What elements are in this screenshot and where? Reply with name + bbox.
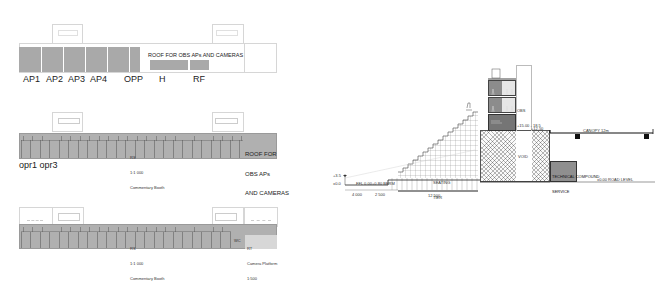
level-label-ground: ±0.0 <box>333 181 341 186</box>
canopy-label: CANOPY 12m <box>583 128 609 133</box>
podium-label: TECHNICAL COMPOUND SERVICE <box>552 164 599 204</box>
ground-label-berm: +0.80 BERM <box>372 181 395 186</box>
road-label: ±0.00 ROAD LEVEL <box>597 177 633 182</box>
dim-label-3: 12 500 <box>428 193 440 198</box>
level-label-upper: +3.5 <box>333 173 341 178</box>
center-note-line-3: Commentary Booth <box>130 276 164 281</box>
stand-note: SEATING TIER <box>433 170 450 210</box>
dim-label-1: 4 000 <box>352 192 362 197</box>
podium-label-line-2: SERVICE <box>552 189 599 194</box>
stand-note-line-1: SEATING <box>433 180 450 185</box>
podium-label-line-1: TECHNICAL COMPOUND <box>552 174 599 179</box>
ground-label-ffl: FFL 0.00 <box>356 181 372 186</box>
dim-label-2: 2 500 <box>375 192 385 197</box>
end-note-line-3: 1:500 <box>247 276 277 281</box>
